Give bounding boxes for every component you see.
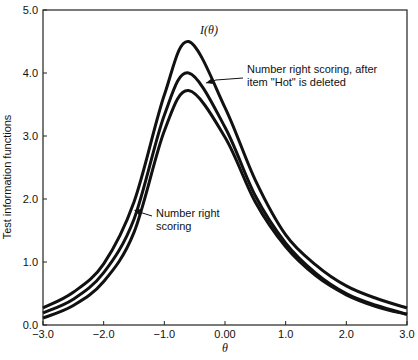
x-axis: −3.0−2.0−1.00.001.02.03.0 — [32, 321, 415, 340]
y-tick-label: 2.0 — [23, 193, 38, 205]
y-tick-label: 5.0 — [23, 4, 38, 16]
arrowhead-icon — [206, 78, 213, 84]
y-tick-label: 1.0 — [23, 256, 38, 268]
y-tick-label: 4.0 — [23, 67, 38, 79]
annotation-hot-deleted-line1: Number right scoring, after — [247, 63, 378, 75]
curve-i-theta — [43, 41, 407, 308]
x-axis-label: θ — [222, 341, 228, 355]
x-tick-label: 2.0 — [339, 328, 354, 340]
x-tick-label: 0.00 — [214, 328, 235, 340]
annotation-i-theta: I(θ) — [199, 23, 218, 37]
y-axis-label: Test information functions — [1, 114, 13, 239]
x-tick-label: −1.0 — [153, 328, 175, 340]
annotation-number-right-line1: Number right — [156, 207, 220, 219]
curves — [43, 41, 407, 318]
annotation-hot-deleted-line2: item "Hot" is deleted — [247, 76, 346, 88]
x-tick-label: 3.0 — [399, 328, 414, 340]
y-tick-label: 0.0 — [23, 319, 38, 331]
x-tick-label: 1.0 — [278, 328, 293, 340]
annotation-number-right: Number right scoring — [134, 207, 220, 232]
y-tick-label: 3.0 — [23, 130, 38, 142]
x-tick-label: −2.0 — [93, 328, 115, 340]
annotation-hot-deleted: Number right scoring, after item "Hot" i… — [206, 63, 378, 88]
annotation-number-right-line2: scoring — [156, 220, 191, 232]
test-information-chart: −3.0−2.0−1.00.001.02.03.0 0.01.02.03.04.… — [0, 0, 418, 360]
